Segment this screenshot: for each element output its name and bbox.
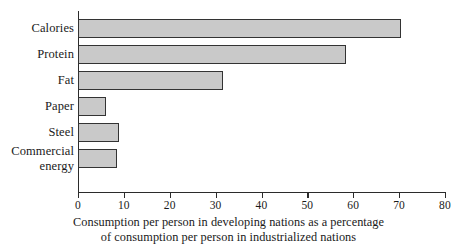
bar xyxy=(78,19,401,38)
x-axis-title: Consumption per person in developing nat… xyxy=(0,215,457,245)
category-label: Paper xyxy=(45,99,74,114)
bars-layer: CaloriesProteinFatPaperSteelCommercial e… xyxy=(0,0,457,248)
bar xyxy=(78,97,106,116)
bar xyxy=(78,71,223,90)
category-label: Commercial energy xyxy=(11,144,74,173)
bar-chart: 01020304050607080 CaloriesProteinFatPape… xyxy=(0,0,457,248)
bar xyxy=(78,45,346,64)
category-label: Fat xyxy=(58,73,74,88)
category-label: Steel xyxy=(49,125,75,140)
bar xyxy=(78,123,119,142)
bar xyxy=(78,149,117,168)
category-label: Calories xyxy=(32,21,74,36)
category-label: Protein xyxy=(37,47,74,62)
x-axis-title-line-2: of consumption per person in industriali… xyxy=(0,230,457,245)
x-axis-title-line-1: Consumption per person in developing nat… xyxy=(0,215,457,230)
